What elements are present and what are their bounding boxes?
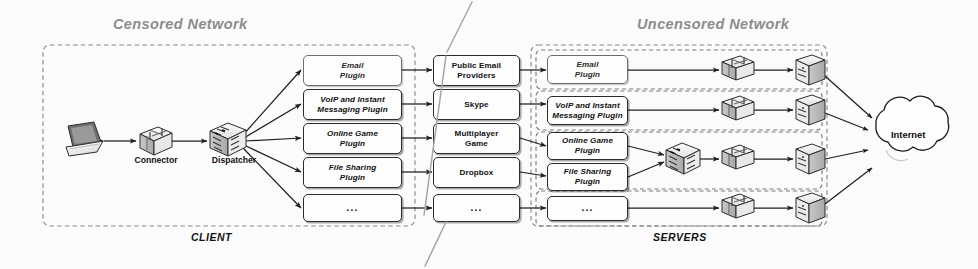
servers-footer-label: SERVERS: [653, 231, 707, 243]
censorship-boundary: [0, 0, 978, 269]
diagram-canvas: Censored Network Uncensored Network CLIE…: [0, 0, 978, 269]
dispatcher-label: Dispatcher: [193, 155, 275, 165]
client-footer-label: CLIENT: [191, 231, 232, 243]
connector-label: Connector: [121, 155, 191, 165]
censorship-boundary-top: [447, 2, 472, 52]
internet-label: Internet: [891, 129, 925, 140]
censorship-boundary-middle: [424, 56, 446, 215]
censorship-boundary-bottom: [425, 222, 446, 266]
censored-network-title: Censored Network: [113, 16, 248, 32]
uncensored-network-title: Uncensored Network: [637, 16, 789, 32]
